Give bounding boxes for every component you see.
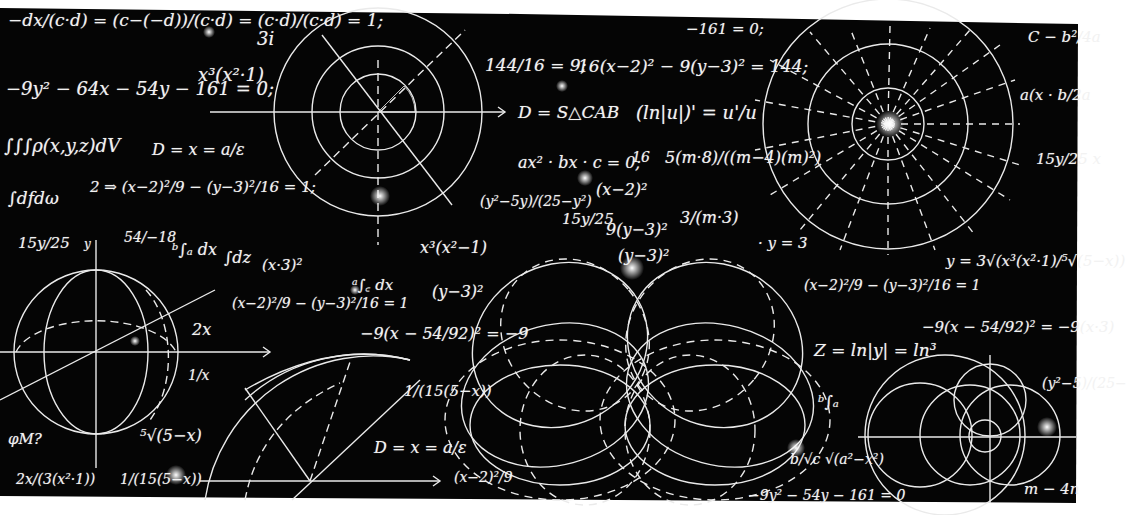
- formula-f34: ᵃ∫꜀ dx: [352, 278, 393, 293]
- formula-f53: (x−2)²/9: [454, 470, 513, 484]
- formula-f2: 3i: [257, 30, 274, 48]
- formula-f42: −9(x − 54/92)² = −9(x·3): [922, 320, 1114, 335]
- formula-f38: −9(x − 54/92)² = −9: [360, 326, 528, 342]
- formula-f7: 16(x−2)² − 9(y−3)² = 144;: [578, 58, 808, 75]
- formula-f37: (x−2)²/9 − (y−3)²/16 = 1: [232, 296, 408, 310]
- formula-f30: ᵇ∫ₐ dx: [172, 242, 217, 258]
- formula-f50: (y²−5)/(25−: [1042, 376, 1127, 390]
- formula-f1: −dx/(c·d) = (c−(−d))/(c·d) = (c·d)/(c·d)…: [8, 12, 383, 29]
- formula-f13: ∫∫∫ρ(x,y,z)dV: [4, 137, 120, 155]
- formula-f20: (x−2)²: [596, 182, 648, 198]
- formula-f40: y = 3√(x³(x²·1)/⁵√(5−x)): [946, 254, 1125, 269]
- formula-f15: ∫dfdω: [8, 190, 59, 207]
- formula-f24: 3/(m·3): [680, 210, 739, 226]
- formula-f39: (x−2)²/9 − (y−3)²/16 = 1: [804, 278, 980, 292]
- formula-f46: ⁵√(5−x): [140, 428, 202, 444]
- formula-f6: 144/16 = 9;: [485, 57, 586, 74]
- formula-f49: b/√c √(a²−x²): [790, 452, 884, 466]
- formula-f17: ax² · bx · c = 0;: [518, 155, 641, 171]
- formula-f11: a(x · b/2a: [1020, 88, 1091, 103]
- formula-f27: 15y/25: [18, 236, 70, 251]
- formula-f31: ∫dz: [224, 250, 251, 266]
- formula-f14: D = x = a/ε: [152, 142, 245, 158]
- formula-f8: D = S△CAB: [518, 104, 619, 121]
- formula-f21: (y²−5y)/(25−y²): [480, 194, 592, 208]
- formula-f9: (ln|u|)' = u'/u: [636, 104, 757, 122]
- formula-f16: 2 ⇒ (x−2)²/9 − (y−3)²/16 = 1;: [90, 180, 316, 195]
- formula-f33: x³(x²−1): [420, 240, 487, 256]
- formula-f44: 1/(15(5−x)): [404, 384, 492, 399]
- formula-f32: (x·3)²: [262, 258, 303, 273]
- formula-f43: 1/x: [188, 368, 210, 382]
- formula-f25: · y = 3: [758, 236, 808, 251]
- formula-f26: (y−3)²: [618, 248, 670, 264]
- formula-f23: 9(y−3)²: [606, 222, 668, 238]
- formula-f5: −161 = 0;: [686, 22, 764, 37]
- formula-f28: y: [84, 238, 91, 250]
- formula-f55: m − 4n: [1024, 482, 1080, 497]
- formula-f4: x³(x²·1): [198, 66, 264, 84]
- formula-f47: D = x = a/ε: [374, 440, 467, 456]
- formula-f18: 16: [632, 150, 650, 164]
- formula-f29: 54/−18: [124, 230, 176, 244]
- formula-f48: ᵇ∫ₐ: [818, 394, 839, 410]
- formula-f54: −9y² − 54y − 161 = 0: [748, 488, 905, 502]
- formula-f10: C − b²/4a: [1028, 30, 1101, 45]
- formula-f41: Z = ln|y| = ln³: [814, 342, 937, 359]
- formula-f36: 2x: [192, 322, 211, 338]
- formula-f52: 1/(15(5−x)): [120, 472, 202, 486]
- formula-f35: (y−3)²: [432, 284, 484, 300]
- formula-f45: φM?: [8, 432, 42, 447]
- formula-f19: 5(m·8)/((m−4)(m)²): [665, 150, 821, 166]
- formula-f12: 15y/25 x: [1036, 152, 1101, 167]
- formula-f51: 2x/(3(x²·1)): [16, 472, 95, 486]
